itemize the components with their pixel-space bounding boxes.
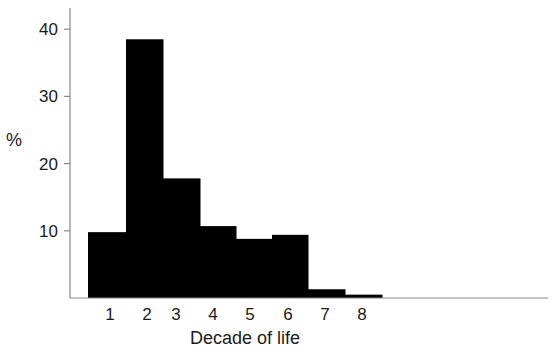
x-tick-label: 7 (320, 305, 329, 324)
x-tick-label: 6 (283, 305, 292, 324)
y-axis-label: % (6, 130, 22, 150)
x-tick-label: 1 (105, 305, 114, 324)
x-tick-label: 2 (142, 305, 151, 324)
x-tick-label: 8 (357, 305, 366, 324)
bar-decade-2 (126, 39, 164, 298)
bar-decade-5 (236, 239, 273, 298)
x-ticks: 12345678 (105, 305, 366, 324)
y-ticks: 10203040 (39, 20, 70, 241)
bar-decade-3 (163, 178, 201, 298)
bar-decade-4 (200, 226, 237, 298)
x-axis-label: Decade of life (190, 328, 300, 348)
y-tick-label: 30 (39, 87, 58, 106)
x-tick-label: 3 (171, 305, 180, 324)
bar-decade-6 (272, 235, 309, 298)
y-tick-label: 20 (39, 155, 58, 174)
y-tick-label: 40 (39, 20, 58, 39)
histogram-chart: 10203040 12345678 % Decade of life (0, 0, 554, 352)
bar-decade-1 (88, 232, 127, 298)
bars (88, 39, 383, 298)
x-tick-label: 5 (245, 305, 254, 324)
bar-decade-7 (308, 289, 346, 298)
y-tick-label: 10 (39, 222, 58, 241)
x-tick-label: 4 (208, 305, 217, 324)
